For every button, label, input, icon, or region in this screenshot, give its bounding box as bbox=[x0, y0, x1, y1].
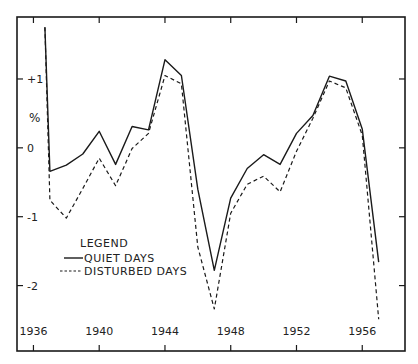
plot-frame bbox=[17, 17, 405, 351]
x-axis-ticks: 193619401944194819521956 bbox=[19, 17, 376, 351]
x-tick-label: 1940 bbox=[85, 325, 113, 338]
y-tick-label: -2 bbox=[27, 280, 38, 293]
y-axis-ticks: +10-1-2 bbox=[17, 73, 405, 293]
y-tick-label: -1 bbox=[27, 211, 38, 224]
legend-label-quiet-days: QUIET DAYS bbox=[84, 252, 155, 265]
x-tick-label: 1952 bbox=[282, 325, 310, 338]
x-tick-label: 1936 bbox=[19, 325, 47, 338]
x-tick-label: 1948 bbox=[217, 325, 245, 338]
y-tick-label: +1 bbox=[27, 73, 43, 86]
y-tick-label: 0 bbox=[27, 142, 34, 155]
x-tick-label: 1944 bbox=[151, 325, 179, 338]
legend-title: LEGEND bbox=[80, 237, 128, 250]
chart: 193619401944194819521956 +10-1-2 % LEGEN… bbox=[0, 0, 418, 364]
legend-label-disturbed-days: DISTURBED DAYS bbox=[84, 265, 187, 278]
series-line-quiet-days bbox=[45, 27, 379, 270]
y-axis-label: % bbox=[29, 111, 40, 125]
legend: LEGEND QUIET DAYS DISTURBED DAYS bbox=[60, 237, 187, 278]
x-tick-label: 1956 bbox=[348, 325, 376, 338]
